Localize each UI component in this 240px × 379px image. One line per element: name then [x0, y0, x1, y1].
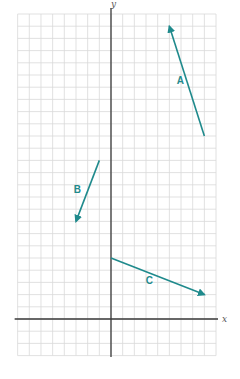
vector-a-label: A: [177, 75, 184, 86]
vector-c-label: C: [146, 275, 153, 286]
y-axis-label: y: [110, 0, 117, 9]
vector-a: A: [169, 26, 204, 136]
vector-b-label: B: [74, 184, 81, 195]
vector-grid-figure: x y ABC: [0, 0, 240, 379]
x-axis-label: x: [222, 314, 227, 324]
grid: [18, 14, 216, 356]
axes: x y: [15, 0, 227, 357]
vector-b: B: [74, 160, 100, 221]
vector-a-arrow: [169, 26, 204, 136]
